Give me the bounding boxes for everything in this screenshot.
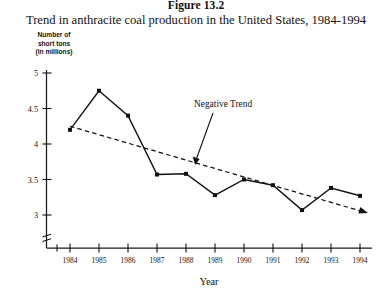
- data-point-marker: [242, 178, 246, 182]
- chart-plot-area: 33.544.55 198419851986198719881989199019…: [0, 0, 392, 291]
- x-axis-tick-label: 1984: [63, 256, 78, 265]
- x-axis-tick-label: 1991: [266, 256, 281, 265]
- data-point-marker: [68, 128, 72, 132]
- x-axis-title: Year: [199, 276, 219, 287]
- x-axis-tick-label: 1988: [179, 256, 194, 265]
- data-point-marker: [97, 89, 101, 93]
- trend-arrowhead-icon: [358, 207, 368, 214]
- x-axis-tick-label: 1985: [92, 256, 107, 265]
- data-point-marker: [184, 172, 188, 176]
- y-axis-tick-label: 4.5: [28, 105, 38, 114]
- y-axis-tick-label: 4: [34, 140, 38, 149]
- annotation-label: Negative Trend: [194, 99, 252, 109]
- x-axis-ticks: 1984198519861987198819891990199119921993…: [63, 244, 368, 266]
- y-axis-tick-label: 3: [34, 211, 38, 220]
- trend-line-group: [70, 126, 368, 213]
- x-axis-tick-label: 1989: [208, 256, 223, 265]
- data-point-marker: [358, 194, 362, 198]
- negative-trend-line: [70, 126, 362, 211]
- data-point-marker: [329, 186, 333, 190]
- data-point-marker: [126, 114, 130, 118]
- data-point-marker: [155, 173, 159, 177]
- data-point-marker: [213, 193, 217, 197]
- x-axis-tick-label: 1992: [295, 256, 310, 265]
- y-axis-ticks: 33.544.55: [28, 69, 52, 220]
- y-axis-tick-label: 5: [34, 69, 38, 78]
- x-axis-tick-label: 1993: [324, 256, 339, 265]
- data-point-marker: [271, 183, 275, 187]
- y-axis-tick-label: 3.5: [28, 176, 38, 185]
- figure-container: Figure 13.2 Trend in anthracite coal pro…: [0, 0, 392, 291]
- x-axis-tick-label: 1994: [353, 256, 368, 265]
- annotation-arrow: [193, 113, 213, 165]
- x-axis-tick-label: 1990: [237, 256, 252, 265]
- x-axis-tick-label: 1987: [150, 256, 165, 265]
- x-axis-tick-label: 1986: [121, 256, 136, 265]
- data-point-marker: [300, 208, 304, 212]
